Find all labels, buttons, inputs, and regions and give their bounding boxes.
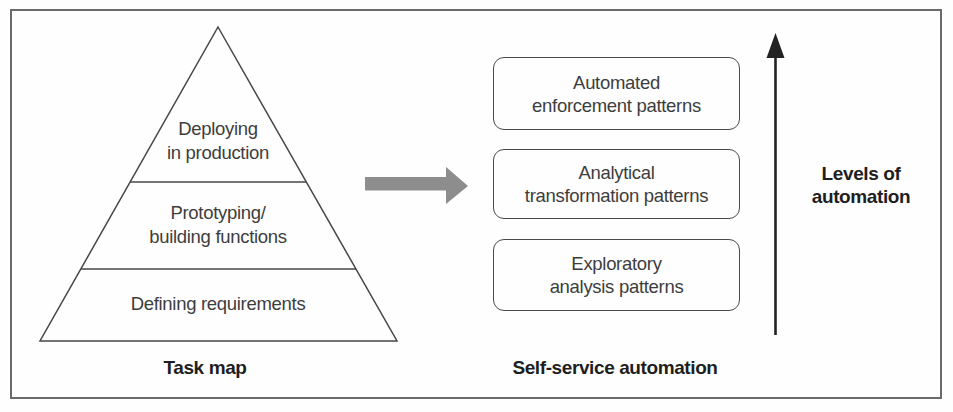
pattern-box-exploratory-analysis: Exploratory analysis patterns (493, 239, 740, 311)
pyramid-level-defining: Defining requirements (88, 292, 348, 316)
pyramid-level-prototyping: Prototyping/ building functions (108, 201, 328, 249)
pattern-box-analytical-transformation: Analytical transformation patterns (493, 149, 740, 219)
self-service-caption: Self-service automation (465, 357, 765, 379)
task-map-caption: Task map (105, 357, 305, 379)
right-arrow-icon (365, 167, 468, 204)
figure-canvas: Deploying in production Prototyping/ bui… (0, 0, 953, 412)
levels-of-automation-label: Levels of automation (786, 162, 936, 208)
pyramid-level-deploying: Deploying in production (118, 117, 318, 165)
pattern-box-automated-enforcement: Automated enforcement patterns (493, 57, 740, 130)
up-arrow-icon (767, 33, 785, 335)
